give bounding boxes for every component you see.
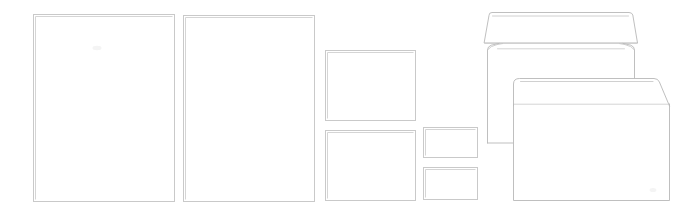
- envelope-front-pointed-flap[interactable]: [514, 79, 670, 201]
- size-comparison-canvas: Line drawing comparison of paper sheet s…: [0, 0, 685, 215]
- sheet-small-bottom[interactable]: [424, 168, 478, 200]
- group-medium-sheets: [326, 51, 416, 201]
- sheet-large-left[interactable]: [34, 15, 175, 202]
- drawing-surface: [0, 0, 685, 215]
- sheet-small-top[interactable]: [424, 128, 478, 158]
- group-small-sheets: [424, 128, 478, 200]
- group-large-sheets: [34, 15, 315, 202]
- sheet-medium-bottom[interactable]: [326, 131, 416, 201]
- sheet-large-right[interactable]: [184, 16, 315, 202]
- sheet-medium-top[interactable]: [326, 51, 416, 121]
- group-envelopes: [485, 13, 670, 201]
